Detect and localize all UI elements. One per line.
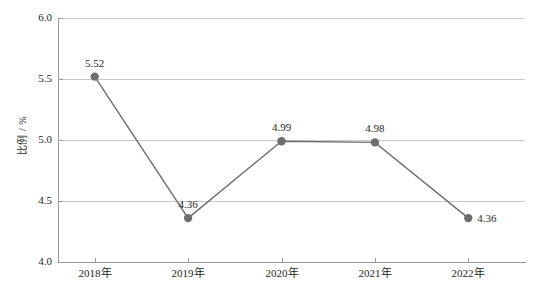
data-point-label: 5.52 [85, 58, 104, 69]
data-point-marker[interactable] [371, 138, 379, 146]
data-point-marker[interactable] [184, 214, 192, 222]
data-point-marker[interactable] [464, 214, 472, 222]
data-series-layer [0, 0, 538, 292]
data-point-label: 4.36 [477, 213, 496, 224]
data-point-label: 4.36 [178, 199, 197, 210]
data-point-marker[interactable] [277, 137, 285, 145]
data-point-label: 4.98 [365, 123, 384, 134]
data-point-label: 4.99 [272, 122, 291, 133]
series-line [95, 77, 469, 219]
line-chart: 比例 / % 4.04.55.05.56.0 2018年2019年2020年20… [0, 0, 538, 292]
data-point-marker[interactable] [91, 72, 99, 80]
